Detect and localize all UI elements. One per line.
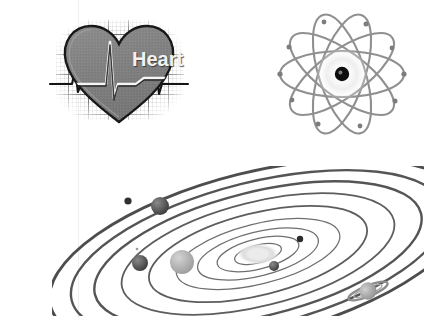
planet-inner-a [297,236,303,242]
planet-outer-c [124,197,131,204]
planet-outer-a [132,255,148,271]
solar-system-figure: Solar System [52,166,424,316]
heart-figure: Heart [40,6,198,134]
illustration-page: Heart [0,0,426,318]
solar-system-icon [52,166,424,316]
planet-jupiter [170,250,194,274]
nucleus-highlight [338,70,342,74]
heart-label: Heart [132,48,183,71]
planet-inner-b [269,261,279,271]
planet-outer-b [151,197,169,215]
atom-icon [262,4,422,144]
nucleus [335,67,349,81]
atom-figure: Atom [262,4,422,144]
planet-speck [136,248,139,251]
